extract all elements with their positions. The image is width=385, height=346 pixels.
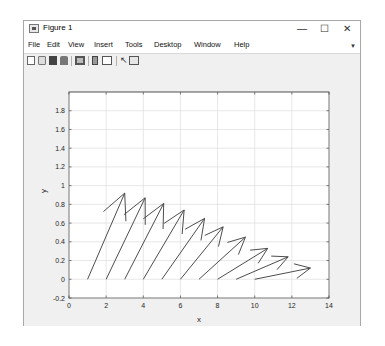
property-inspector-icon[interactable] — [129, 56, 139, 65]
print-icon[interactable] — [60, 56, 68, 65]
x-tick-label: 14 — [325, 302, 333, 309]
insert-legend-icon[interactable] — [102, 56, 112, 65]
y-tick-label: 0.4 — [55, 238, 65, 245]
menu-insert[interactable]: Insert — [94, 40, 113, 49]
y-tick-label: -0.2 — [53, 295, 65, 302]
figure-canvas: 02468101214-0.200.20.40.60.811.21.41.61.… — [24, 68, 360, 326]
figure-toolbar: ↖ — [24, 53, 360, 69]
menu-tools[interactable]: Tools — [125, 40, 143, 49]
y-tick-label: 1 — [61, 182, 65, 189]
window-title: Figure 1 — [43, 23, 72, 32]
open-file-icon[interactable] — [38, 56, 46, 65]
edit-plot-icon[interactable]: ↖ — [120, 56, 128, 65]
x-tick-label: 12 — [288, 302, 296, 309]
y-tick-label: 0.8 — [55, 201, 65, 208]
x-tick-label: 4 — [141, 302, 145, 309]
menu-file[interactable]: File — [28, 40, 40, 49]
toolbar-separator — [116, 56, 117, 66]
x-tick-label: 8 — [216, 302, 220, 309]
menu-bar: File Edit View Insert Tools Desktop Wind… — [24, 37, 360, 53]
quiver-plot[interactable]: 02468101214-0.200.20.40.60.811.21.41.61.… — [24, 68, 362, 326]
insert-colorbar-icon[interactable] — [92, 56, 98, 65]
dock-arrow-icon[interactable]: ▼ — [350, 43, 356, 49]
x-tick-label: 6 — [178, 302, 182, 309]
y-tick-label: 0 — [61, 276, 65, 283]
matlab-figure-icon — [29, 24, 39, 33]
y-axis-label: y — [39, 189, 48, 193]
menu-window[interactable]: Window — [194, 40, 221, 49]
y-tick-label: 0.6 — [55, 220, 65, 227]
minimize-button[interactable]: — — [292, 22, 312, 36]
link-plot-icon[interactable] — [75, 56, 85, 65]
menu-help[interactable]: Help — [234, 40, 249, 49]
x-axis-label: x — [197, 315, 201, 324]
axes-box — [69, 92, 329, 298]
toolbar-separator — [88, 56, 89, 66]
menu-view[interactable]: View — [68, 40, 84, 49]
y-tick-label: 1.2 — [55, 163, 65, 170]
title-bar[interactable]: Figure 1 — ☐ ✕ — [24, 21, 360, 37]
x-tick-label: 2 — [104, 302, 108, 309]
y-tick-label: 1.6 — [55, 126, 65, 133]
x-tick-label: 0 — [67, 302, 71, 309]
y-tick-label: 1.4 — [55, 145, 65, 152]
menu-edit[interactable]: Edit — [47, 40, 60, 49]
toolbar-separator — [71, 56, 72, 66]
y-tick-label: 0.2 — [55, 257, 65, 264]
close-button[interactable]: ✕ — [337, 22, 357, 36]
maximize-button[interactable]: ☐ — [314, 22, 334, 36]
figure-window: Figure 1 — ☐ ✕ File Edit View Insert Too… — [23, 20, 361, 326]
save-icon[interactable] — [49, 56, 57, 65]
y-tick-label: 1.8 — [55, 107, 65, 114]
menu-desktop[interactable]: Desktop — [154, 40, 182, 49]
new-figure-icon[interactable] — [27, 56, 35, 65]
x-tick-label: 10 — [251, 302, 259, 309]
